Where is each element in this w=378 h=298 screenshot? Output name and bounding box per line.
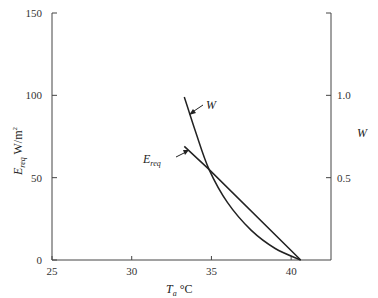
ereq-annotation: Ereq	[142, 150, 189, 168]
axes	[52, 13, 331, 260]
x-tick-label: 35	[206, 265, 218, 277]
y-tick-label: 100	[26, 89, 43, 101]
y-tick-label: 50	[31, 172, 43, 184]
right-ticks: 0.51.0	[326, 13, 351, 184]
series-line-ereq	[184, 146, 300, 260]
y2-tick-label: 1.0	[337, 89, 351, 101]
y-tick-label: 0	[37, 254, 43, 266]
w-annotation: W	[189, 98, 217, 115]
x-tick-label: 30	[126, 265, 138, 277]
x-axis-label: Ta °C	[166, 282, 193, 298]
x-tick-label: 40	[286, 265, 298, 277]
y-tick-label: 150	[26, 7, 43, 19]
y2-tick-label: 0.5	[337, 172, 351, 184]
bottom-ticks: 25303540	[47, 256, 298, 277]
y-axis-label: Ereq W/m2	[11, 127, 27, 177]
right-axis-label: W	[357, 126, 368, 140]
w-series-label: W	[206, 98, 217, 112]
ereq-series-label: Ereq	[142, 152, 161, 168]
series	[184, 97, 300, 260]
chart: 050100150 0.51.0 25303540 W Ereq Ereq W/…	[0, 0, 378, 298]
series-line-w	[184, 97, 300, 260]
x-tick-label: 25	[47, 265, 59, 277]
